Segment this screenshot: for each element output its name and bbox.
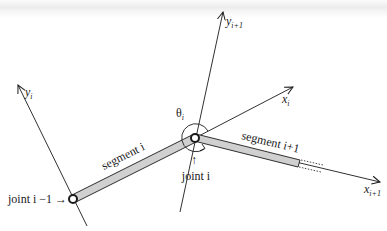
joint-i-label: joint i <box>181 169 211 183</box>
x-i1-label: xi+1 <box>363 182 381 198</box>
joint-i-arrow-icon: ↑ <box>191 153 197 167</box>
x-i-label: xi <box>281 92 290 108</box>
theta-arc-arrowhead-icon <box>200 144 205 151</box>
joint-i-marker <box>191 134 199 142</box>
joint-i-minus-1-marker <box>69 195 77 203</box>
y-i1-label: yi+1 <box>225 14 243 30</box>
joint-i-minus-1-label: joint i −1 → <box>7 192 67 206</box>
kinematic-diagram: yi yi+1 xi xi+1 θi segment i segment i+1… <box>0 0 387 231</box>
y-i-label: yi <box>24 85 33 101</box>
segment-i1-continuation-bottom <box>299 167 321 172</box>
theta-label: θi <box>176 106 184 122</box>
